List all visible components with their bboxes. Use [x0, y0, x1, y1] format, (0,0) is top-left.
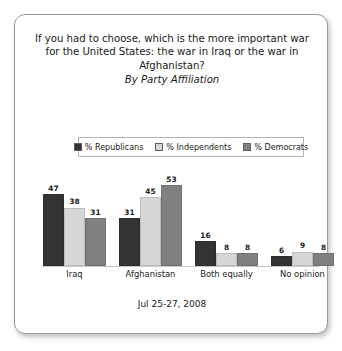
title-block: If you had to choose, which is the more …	[31, 32, 313, 87]
bar-value-label: 31	[83, 208, 109, 217]
bar-column[interactable]: 47	[43, 175, 64, 266]
bar-column[interactable]: 53	[161, 175, 182, 266]
bar-value-label: 31	[117, 208, 143, 217]
bar-column[interactable]: 8	[237, 175, 258, 266]
bar-value-label: 8	[311, 243, 337, 252]
legend-swatch-icon	[155, 143, 163, 151]
legend-swatch-icon	[74, 143, 82, 151]
bar[interactable]	[216, 253, 237, 265]
chart-subtitle: By Party Affiliation	[31, 73, 313, 87]
bar-column[interactable]: 6	[271, 175, 292, 266]
category-label: No opinion	[271, 269, 334, 279]
page-title: If you had to choose, which is the more …	[31, 32, 313, 72]
category-label: Afghanistan	[119, 269, 182, 279]
legend-item-label: % Republicans	[85, 143, 143, 152]
bar-value-label: 45	[138, 187, 164, 196]
bar-value-label: 16	[193, 231, 219, 240]
bar-column[interactable]: 8	[313, 175, 334, 266]
legend-item[interactable]: % Independents	[155, 143, 231, 152]
footer-date: Jul 25-27, 2008	[15, 299, 329, 309]
bar-value-label: 38	[62, 197, 88, 206]
bar[interactable]	[85, 218, 106, 265]
chart-legend: % Republicans% Independents% Democrats	[78, 137, 304, 157]
bar-group: 314553Afghanistan	[119, 175, 182, 266]
legend-item-label: % Democrats	[254, 143, 308, 152]
bar-value-label: 47	[41, 184, 67, 193]
bar-value-label: 53	[159, 175, 185, 184]
legend-item[interactable]: % Republicans	[74, 143, 143, 152]
bar-group: 1688Both equally	[195, 175, 258, 266]
bar[interactable]	[271, 256, 292, 265]
bar-column[interactable]: 45	[140, 175, 161, 266]
bar[interactable]	[292, 252, 313, 266]
bar-column[interactable]: 38	[64, 175, 85, 266]
bar[interactable]	[140, 197, 161, 265]
bar[interactable]	[237, 253, 258, 265]
axis-baseline	[43, 266, 319, 268]
chart-card: If you had to choose, which is the more …	[14, 14, 328, 334]
bar-column[interactable]: 31	[85, 175, 106, 266]
bar-group: 698No opinion	[271, 175, 334, 266]
bar[interactable]	[313, 253, 334, 265]
chart-plot-area: 473831Iraq314553Afghanistan1688Both equa…	[31, 175, 313, 267]
legend-item-label: % Independents	[166, 143, 231, 152]
legend-swatch-icon	[243, 143, 251, 151]
legend-item[interactable]: % Democrats	[243, 143, 308, 152]
bar-value-label: 8	[235, 243, 261, 252]
bar-group: 473831Iraq	[43, 175, 106, 266]
bar[interactable]	[119, 218, 140, 265]
category-label: Iraq	[43, 269, 106, 279]
bar[interactable]	[161, 185, 182, 265]
category-label: Both equally	[195, 269, 258, 279]
